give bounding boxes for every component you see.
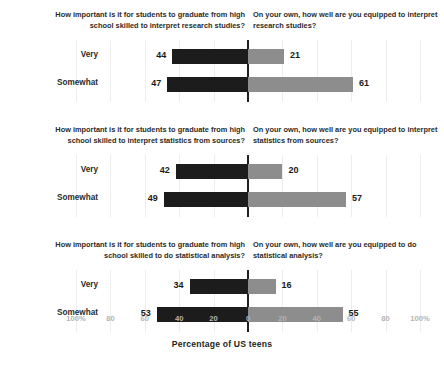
chart-row: Somewhat4761 <box>0 72 444 98</box>
bar-value-right: 57 <box>352 193 392 203</box>
chart-row: Very4220 <box>0 159 444 185</box>
bar-left <box>190 279 248 294</box>
x-axis: 100%80604020020406080100% <box>0 314 444 332</box>
bar-value-right: 20 <box>288 165 328 175</box>
panel-headers: How important is it for students to grad… <box>0 125 444 155</box>
panel-headers: How important is it for students to grad… <box>0 10 444 40</box>
panel-plot-area: Very4220Somewhat4957 <box>0 155 444 217</box>
bar-left <box>176 164 248 179</box>
panel-header-right: On your own, how well are you equipped t… <box>253 240 443 261</box>
bar-value-left: 49 <box>118 193 158 203</box>
panel-header-left: How important is it for students to grad… <box>46 125 245 146</box>
bar-left <box>164 192 248 207</box>
bar-left <box>167 77 248 92</box>
bar-right <box>248 49 284 64</box>
bar-right <box>248 192 346 207</box>
panel-header-right: On your own, how well are you equipped t… <box>253 125 443 146</box>
axis-tick-label: 80 <box>381 314 389 323</box>
bar-value-right: 21 <box>290 50 330 60</box>
axis-tick-label: 40 <box>175 314 183 323</box>
axis-tick-label: 60 <box>347 314 355 323</box>
chart-row: Very3416 <box>0 274 444 300</box>
axis-tick-label: 80 <box>106 314 114 323</box>
row-label: Very <box>0 280 98 289</box>
bar-right <box>248 164 282 179</box>
bar-value-right: 16 <box>282 280 322 290</box>
axis-tick-label: 100% <box>66 314 85 323</box>
x-axis-title: Percentage of US teens <box>0 339 444 349</box>
row-label: Very <box>0 50 98 59</box>
bar-right <box>248 279 276 294</box>
axis-tick-label: 20 <box>278 314 286 323</box>
panel-header-right: On your own, how well are you equipped t… <box>253 10 443 31</box>
axis-tick-label: 60 <box>141 314 149 323</box>
axis-tick-label: 40 <box>313 314 321 323</box>
row-label: Somewhat <box>0 193 98 202</box>
bar-right <box>248 77 353 92</box>
bar-value-left: 44 <box>126 50 166 60</box>
panel-header-left: How important is it for students to grad… <box>46 10 245 31</box>
chart-panel: How important is it for students to grad… <box>0 125 444 217</box>
bar-value-left: 34 <box>144 280 184 290</box>
chart-row: Somewhat4957 <box>0 187 444 213</box>
bar-value-left: 42 <box>130 165 170 175</box>
bar-value-right: 61 <box>359 78 399 88</box>
row-label: Somewhat <box>0 78 98 87</box>
bar-value-left: 47 <box>121 78 161 88</box>
panel-plot-area: Very4421Somewhat4761 <box>0 40 444 102</box>
bar-left <box>172 49 248 64</box>
chart-panel: How important is it for students to grad… <box>0 10 444 102</box>
diverging-bar-chart: How important is it for students to grad… <box>0 0 444 370</box>
panel-headers: How important is it for students to grad… <box>0 240 444 270</box>
axis-tick-label: 0 <box>246 314 250 323</box>
row-label: Very <box>0 165 98 174</box>
panel-header-left: How important is it for students to grad… <box>46 240 245 261</box>
axis-tick-label: 100% <box>410 314 429 323</box>
axis-tick-label: 20 <box>209 314 217 323</box>
chart-row: Very4421 <box>0 44 444 70</box>
